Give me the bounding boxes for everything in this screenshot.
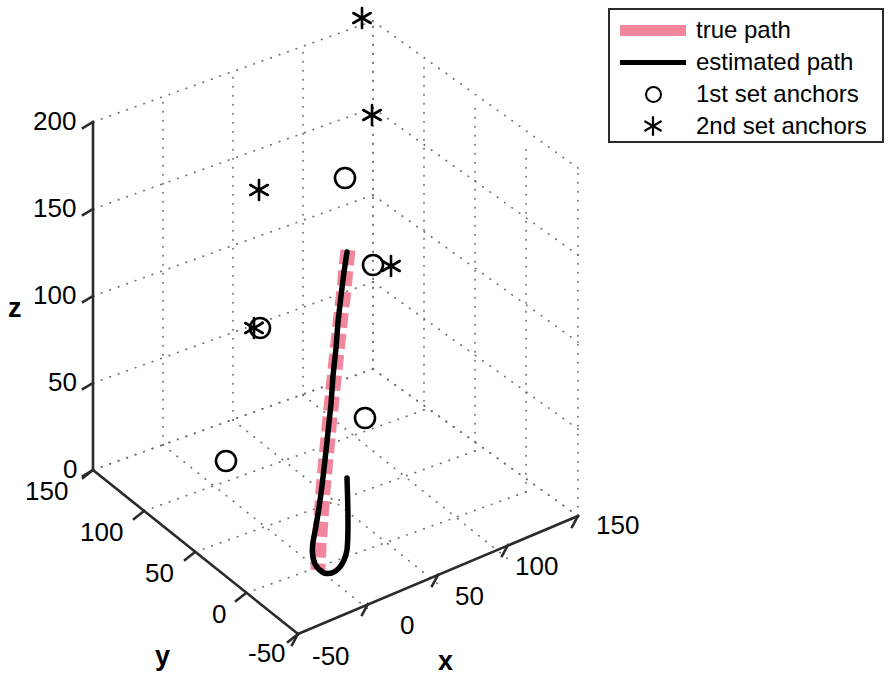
anchor-marker-circle <box>355 408 375 428</box>
legend-box: true path estimated path 1st set anchors… <box>608 8 884 143</box>
legend-item-2nd-set-anchors: 2nd set anchors <box>610 110 882 142</box>
x-tick-label-50: 50 <box>455 583 484 609</box>
y-tick-label-50: 50 <box>145 560 174 586</box>
legend-label-estimated-path: estimated path <box>696 50 853 74</box>
anchor-marker-circle <box>216 451 236 471</box>
x-tick-label-0: 0 <box>400 612 414 638</box>
anchor-marker-circle <box>335 168 355 188</box>
legend-item-1st-set-anchors: 1st set anchors <box>610 78 882 110</box>
z-tick-label-100: 100 <box>33 282 76 308</box>
x-tick-label-neg50: -50 <box>312 643 350 669</box>
grid-right-wall <box>373 21 578 516</box>
z-tick-label-200: 200 <box>33 108 76 134</box>
legend-item-estimated-path: estimated path <box>610 46 882 78</box>
z-axis-title: z <box>8 295 22 322</box>
anchor-marker-asterisk <box>250 180 267 200</box>
anchor-marker-circle <box>363 255 383 275</box>
z-tick-label-50: 50 <box>48 369 77 395</box>
x-axis-title: x <box>438 648 453 675</box>
x-tick-label-100: 100 <box>515 553 558 579</box>
legend-label-2nd-set-anchors: 2nd set anchors <box>696 114 867 138</box>
estimated-path-series <box>312 252 348 574</box>
y-axis-title: y <box>155 643 170 670</box>
circle-marker-icon <box>610 86 696 103</box>
asterisk-marker-icon <box>610 115 696 137</box>
x-tick-label-150: 150 <box>596 512 639 538</box>
anchor-marker-asterisk <box>382 256 399 276</box>
pink-line-swatch-icon <box>610 25 696 36</box>
anchor-marker-asterisk <box>353 8 370 28</box>
y-tick-label-neg50: -50 <box>248 640 286 666</box>
y-tick-label-100: 100 <box>80 519 123 545</box>
black-line-swatch-icon <box>610 60 696 65</box>
legend-label-1st-set-anchors: 1st set anchors <box>696 82 859 106</box>
y-tick-label-150: 150 <box>25 478 68 504</box>
legend-label-true-path: true path <box>696 18 791 42</box>
anchor-markers <box>216 8 400 471</box>
y-tick-label-0: 0 <box>212 601 226 627</box>
anchor-marker-asterisk <box>363 105 380 125</box>
legend-item-true-path: true path <box>610 14 882 46</box>
z-tick-label-150: 150 <box>33 195 76 221</box>
